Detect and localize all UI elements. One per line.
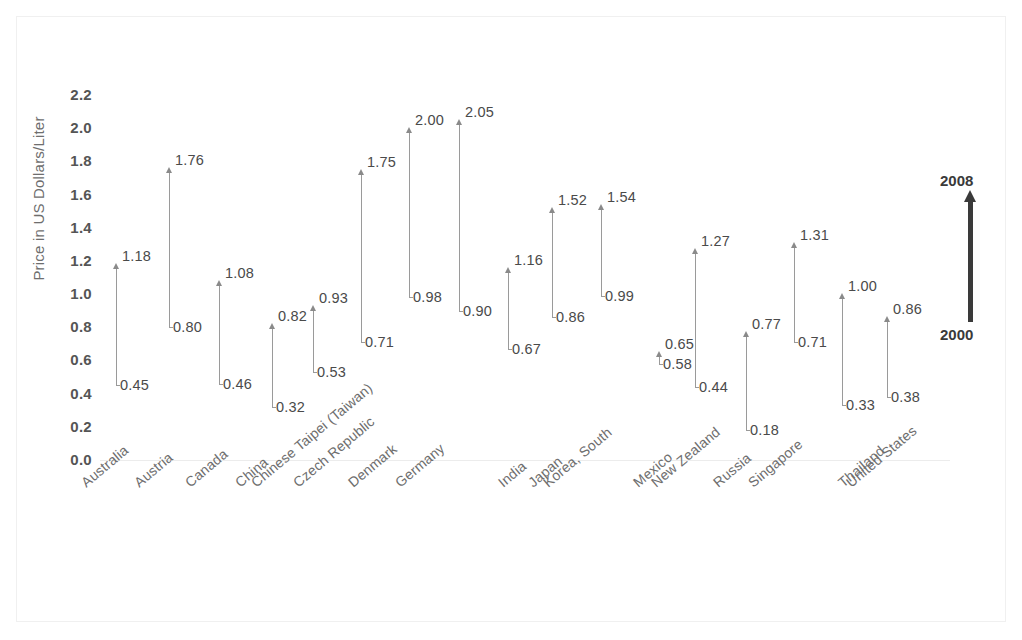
start-value-label: 0.99: [605, 288, 634, 304]
end-value-label: 1.76: [175, 152, 204, 168]
arrow-shaft: [695, 254, 696, 387]
legend-arrow-shaft-icon: [968, 200, 973, 322]
arrow-shaft: [887, 322, 888, 397]
end-value-label: 2.00: [415, 112, 444, 128]
x-axis-label: Canada: [182, 446, 231, 491]
y-axis-tick-label: 0.6: [48, 351, 92, 368]
y-axis-tick-label: 1.8: [48, 152, 92, 169]
arrow-head-icon: [884, 316, 890, 322]
end-value-label: 1.08: [225, 265, 254, 281]
arrow-head-icon: [839, 293, 845, 299]
arrow-shaft: [459, 125, 460, 311]
y-axis-tick-label: 1.2: [48, 252, 92, 269]
arrow-shaft: [169, 173, 170, 327]
arrow-shaft: [842, 299, 843, 405]
start-value-label: 0.71: [365, 334, 394, 350]
plot-area: Price in US Dollars/Liter 2.22.01.81.61.…: [0, 0, 1022, 640]
arrow-head-icon: [505, 267, 511, 273]
arrow-head-icon: [549, 207, 555, 213]
start-value-label: 0.32: [276, 399, 305, 415]
arrow-head-icon: [656, 351, 662, 357]
start-value-label: 0.33: [846, 397, 875, 413]
end-value-label: 1.16: [514, 252, 543, 268]
arrow-shaft: [116, 269, 117, 385]
arrow-shaft: [552, 213, 553, 318]
start-value-label: 0.58: [663, 356, 692, 372]
end-value-label: 0.86: [893, 301, 922, 317]
y-axis-tick-label: 0.2: [48, 418, 92, 435]
arrow-shaft: [313, 311, 314, 372]
start-value-label: 0.86: [556, 309, 585, 325]
arrow-head-icon: [743, 331, 749, 337]
chart-root: Price in US Dollars/Liter 2.22.01.81.61.…: [0, 0, 1022, 640]
y-axis-tick-label: 0.8: [48, 318, 92, 335]
arrow-shaft: [508, 273, 509, 349]
legend-bottom-label: 2000: [940, 326, 973, 343]
arrow-shaft: [409, 133, 410, 297]
arrow-shaft: [794, 248, 795, 343]
end-value-label: 1.31: [800, 227, 829, 243]
arrow-head-icon: [791, 242, 797, 248]
start-value-label: 0.90: [463, 303, 492, 319]
start-value-label: 0.71: [798, 334, 827, 350]
arrow-head-icon: [269, 323, 275, 329]
arrow-shaft: [219, 286, 220, 384]
arrow-head-icon: [406, 127, 412, 133]
arrow-shaft: [361, 175, 362, 343]
x-axis-label: United States: [843, 422, 920, 490]
start-value-label: 0.67: [512, 341, 541, 357]
y-axis-tick-label: 1.0: [48, 285, 92, 302]
end-value-label: 1.52: [558, 192, 587, 208]
arrow-head-icon: [310, 305, 316, 311]
arrow-head-icon: [166, 167, 172, 173]
start-value-label: 0.38: [891, 389, 920, 405]
y-axis-tick-label: 2.2: [48, 86, 92, 103]
end-value-label: 1.54: [607, 189, 636, 205]
end-value-label: 0.77: [752, 316, 781, 332]
x-axis-label: Germany: [392, 440, 447, 490]
arrow-head-icon: [216, 280, 222, 286]
end-value-label: 0.65: [665, 336, 694, 352]
start-value-label: 0.45: [120, 377, 149, 393]
arrow-head-icon: [113, 263, 119, 269]
y-axis-title: Price in US Dollars/Liter: [30, 99, 47, 299]
end-value-label: 1.00: [848, 278, 877, 294]
y-axis-tick-label: 0.4: [48, 385, 92, 402]
end-value-label: 1.75: [367, 154, 396, 170]
arrow-head-icon: [598, 204, 604, 210]
start-value-label: 0.98: [413, 289, 442, 305]
y-axis-tick-label: 1.4: [48, 219, 92, 236]
end-value-label: 0.93: [319, 290, 348, 306]
end-value-label: 0.82: [278, 308, 307, 324]
start-value-label: 0.80: [173, 319, 202, 335]
start-value-label: 0.18: [750, 422, 779, 438]
y-axis-tick-label: 2.0: [48, 119, 92, 136]
arrow-head-icon: [358, 169, 364, 175]
x-axis-label: Austria: [131, 449, 176, 490]
start-value-label: 0.53: [317, 364, 346, 380]
arrow-shaft: [659, 357, 660, 364]
x-axis-label: India: [495, 458, 529, 490]
y-axis-tick-label: 0.0: [48, 451, 92, 468]
arrow-head-icon: [456, 119, 462, 125]
arrow-head-icon: [692, 248, 698, 254]
start-value-label: 0.44: [699, 379, 728, 395]
arrow-shaft: [601, 210, 602, 296]
x-axis-label: Denmark: [345, 441, 400, 491]
end-value-label: 1.18: [122, 248, 151, 264]
arrow-shaft: [272, 329, 273, 407]
x-axis-label: Russia: [710, 450, 754, 491]
y-axis-tick-label: 1.6: [48, 186, 92, 203]
start-value-label: 0.46: [223, 376, 252, 392]
end-value-label: 1.27: [701, 233, 730, 249]
arrow-shaft: [746, 337, 747, 430]
legend-top-label: 2008: [940, 172, 973, 189]
end-value-label: 2.05: [465, 104, 494, 120]
x-axis-label: Singapore: [745, 436, 806, 490]
